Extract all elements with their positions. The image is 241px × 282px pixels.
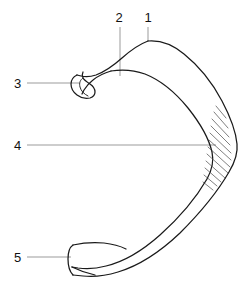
label-number-4: 4 (14, 138, 21, 153)
label-number-2: 2 (115, 10, 122, 25)
label-number-5: 5 (14, 250, 21, 265)
figure-background (0, 0, 241, 282)
label-number-1: 1 (144, 10, 151, 25)
label-number-3: 3 (14, 76, 21, 91)
anatomical-line-drawing: 1 2 3 4 5 (0, 0, 241, 282)
figure-container: 1 2 3 4 5 (0, 0, 241, 282)
